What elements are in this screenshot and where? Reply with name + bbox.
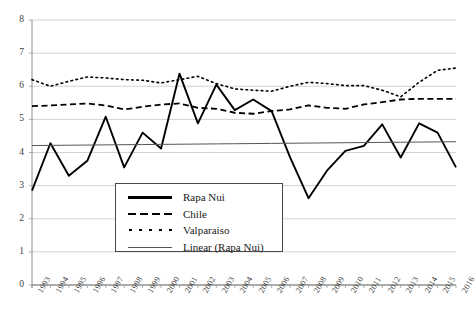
- y-axis-tick-label: 4: [6, 148, 24, 158]
- y-axis-tick-label: 5: [6, 114, 24, 124]
- series-line: [32, 99, 456, 114]
- legend: Rapa NuiChileValparaisoLinear (Rapa Nui): [115, 183, 283, 252]
- legend-swatch-solid-icon: [126, 191, 174, 203]
- legend-label: Valparaiso: [183, 224, 229, 236]
- series-layer: [32, 68, 456, 198]
- legend-swatch-dotted-icon: [126, 224, 174, 236]
- y-axis-tick-label: 8: [6, 15, 24, 25]
- legend-item[interactable]: Valparaiso: [126, 224, 229, 236]
- legend-item[interactable]: Chile: [126, 208, 207, 220]
- legend-label: Chile: [183, 208, 207, 220]
- legend-item[interactable]: Linear (Rapa Nui): [126, 241, 264, 253]
- legend-label: Rapa Nui: [183, 191, 225, 203]
- legend-label: Linear (Rapa Nui): [183, 241, 264, 253]
- y-axis-tick-label: 6: [6, 81, 24, 91]
- series-line: [32, 68, 456, 97]
- y-axis-tick-label: 3: [6, 181, 24, 191]
- y-axis-tick-label: 0: [6, 280, 24, 290]
- legend-swatch-thin-icon: [126, 241, 174, 253]
- y-axis-tick-label: 7: [6, 48, 24, 58]
- legend-swatch-dashed-icon: [126, 208, 174, 220]
- series-line: [32, 74, 456, 199]
- legend-item[interactable]: Rapa Nui: [126, 191, 225, 203]
- y-axis-tick-label: 1: [6, 247, 24, 257]
- y-axis-tick-label: 2: [6, 214, 24, 224]
